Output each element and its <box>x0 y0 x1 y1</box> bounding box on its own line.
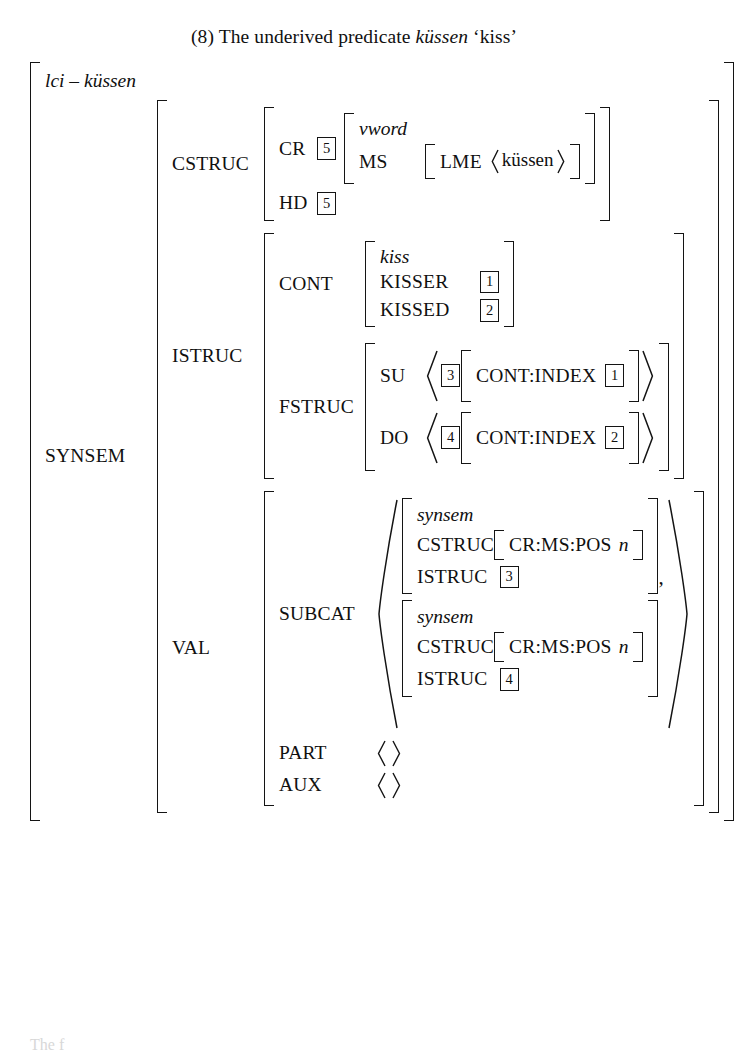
subcat-open-angle-icon <box>377 498 399 730</box>
su-angle-list: 3 CONT:INDEX <box>426 350 654 402</box>
subcat-item-2: synsem CSTRUC <box>402 600 664 697</box>
istruc-attribute-label: ISTRUC <box>172 345 264 367</box>
subcat2-istruc-tag: 4 <box>500 668 519 691</box>
subcat1-left-bracket <box>402 498 412 595</box>
subcat1-right-bracket <box>648 498 658 595</box>
subcat2-left-bracket <box>402 600 412 697</box>
avm-row-lme: LME <box>440 149 565 174</box>
cont-right-bracket <box>504 241 514 327</box>
synsem-left-bracket <box>157 100 167 813</box>
fstruc-right-bracket <box>659 343 669 471</box>
subcat2-pos-value: n <box>619 636 629 658</box>
avm-row-root-type: lci – küssen <box>45 70 719 92</box>
do-inner-coindex-tag: 2 <box>605 426 624 449</box>
avm-ms-value: LME <box>425 144 580 179</box>
do-open-angle-icon <box>426 412 438 464</box>
subcat2-cstruc-label: CSTRUC <box>417 636 494 658</box>
avm-row-subcat2-istruc: ISTRUC 4 <box>417 668 643 691</box>
kisser-attribute-label: KISSER <box>380 271 480 293</box>
footer-text-stub: The f <box>30 1036 64 1054</box>
cr-value-left-bracket <box>344 113 354 184</box>
subcat2-pos-attribute-label: CR:MS:POS <box>509 636 612 658</box>
subcat-item-1: synsem CSTRUC <box>402 498 664 595</box>
figure-caption: (8) The underived predicate küssen ‘kiss… <box>0 26 708 48</box>
istruc-left-bracket <box>264 233 274 479</box>
subcat1-cstruc-right-bracket <box>633 530 643 560</box>
avm-row-ms: MS <box>359 144 580 179</box>
avm-row-subcat1-istruc: ISTRUC 3 <box>417 566 643 589</box>
su-close-angle-icon <box>642 350 654 402</box>
avm-fstruc-value: SU 3 <box>365 343 669 471</box>
avm-row-subcat2-pos: CR:MS:POS n <box>509 636 628 658</box>
part-close-angle-icon <box>392 740 401 767</box>
su-inner-right-bracket <box>629 350 639 402</box>
val-right-bracket <box>694 491 704 806</box>
avm-row-subcat2-cstruc: CSTRUC <box>417 632 643 662</box>
avm-subcat-item-1: synsem CSTRUC <box>402 498 658 595</box>
lme-attribute-label: LME <box>440 151 482 173</box>
do-inner-right-bracket <box>629 412 639 464</box>
subcat-attribute-label: SUBCAT <box>279 603 377 625</box>
avm-row-vword-type: vword <box>359 118 580 140</box>
do-close-angle-icon <box>642 412 654 464</box>
subcat2-cstruc-left-bracket <box>494 632 504 662</box>
subcat-separator: , <box>658 565 663 594</box>
subcat1-pos-attribute-label: CR:MS:POS <box>509 534 612 556</box>
avm-cstruc-value: CR 5 <box>264 107 610 221</box>
avm-row-do: DO 4 <box>380 412 654 464</box>
subcat1-cstruc-label: CSTRUC <box>417 534 494 556</box>
caption-number: (8) <box>191 26 214 47</box>
val-attribute-label: VAL <box>172 637 264 659</box>
fstruc-attribute-label: FSTRUC <box>279 396 365 418</box>
avm-row-kisser: KISSER 1 <box>380 271 499 294</box>
lme-close-angle-icon <box>557 149 565 174</box>
subcat1-pos-value: n <box>619 534 629 556</box>
lme-open-angle-icon <box>491 149 499 174</box>
lme-list-content: küssen <box>502 149 554 174</box>
su-coindex-tag: 3 <box>441 364 460 387</box>
ms-attribute-label: MS <box>359 151 425 173</box>
avm-row-aux: AUX <box>279 772 689 799</box>
avm-subcat1-cstruc-value: CR:MS:POS n <box>494 530 643 560</box>
avm-row-subcat1-cstruc: CSTRUC <box>417 530 643 560</box>
synsem-right-bracket <box>709 100 719 813</box>
kissed-coindex-tag: 2 <box>480 299 499 322</box>
cont-attribute-label: CONT <box>279 273 365 295</box>
avm-do-inner: CONT:INDEX 2 <box>461 412 639 464</box>
kiss-type-label: kiss <box>380 246 409 268</box>
part-open-angle-icon <box>377 740 386 767</box>
avm-row-su-contindex: CONT:INDEX 1 <box>476 364 624 387</box>
avm-row-kissed: KISSED 2 <box>380 299 499 322</box>
cont-left-bracket <box>365 241 375 327</box>
subcat2-type-label: synsem <box>417 606 473 628</box>
cstruc-left-bracket <box>264 107 274 221</box>
hd-attribute-label: HD <box>279 192 317 214</box>
avm-row-cont: CONT kiss <box>279 241 669 327</box>
fstruc-left-bracket <box>365 343 375 471</box>
caption-text: The underived predicate <box>219 26 411 47</box>
aux-attribute-label: AUX <box>279 774 377 796</box>
avm-row-kiss-type: kiss <box>380 246 499 268</box>
avm-row-part: PART <box>279 740 689 767</box>
istruc-right-bracket <box>674 233 684 479</box>
do-angle-list: 4 CONT:INDEX <box>426 412 654 464</box>
kissed-attribute-label: KISSED <box>380 299 480 321</box>
lme-angle-list: küssen <box>491 149 565 174</box>
cstruc-attribute-label: CSTRUC <box>172 153 264 175</box>
subcat2-istruc-label: ISTRUC <box>417 668 488 690</box>
do-attribute-label: DO <box>380 427 426 449</box>
do-coindex-tag: 4 <box>441 426 460 449</box>
subcat-close-angle-icon <box>667 498 689 730</box>
caption-italic-word: küssen <box>415 26 468 47</box>
avm-row-su: SU 3 <box>380 350 654 402</box>
avm-su-inner: CONT:INDEX 1 <box>461 350 639 402</box>
root-type-label: lci – küssen <box>45 70 136 92</box>
avm-subcat2-cstruc-value: CR:MS:POS n <box>494 632 643 662</box>
subcat-angle-list: synsem CSTRUC <box>377 498 689 730</box>
outer-left-bracket <box>30 62 40 821</box>
avm-row-cr: CR 5 <box>279 113 595 184</box>
su-open-angle-icon <box>426 350 438 402</box>
avm-outer: lci – küssen SYNSEM CSTRUC <box>30 62 734 821</box>
avm-val-value: SUBCAT <box>264 491 704 806</box>
avm-diagram: lci – küssen SYNSEM CSTRUC <box>30 62 734 821</box>
